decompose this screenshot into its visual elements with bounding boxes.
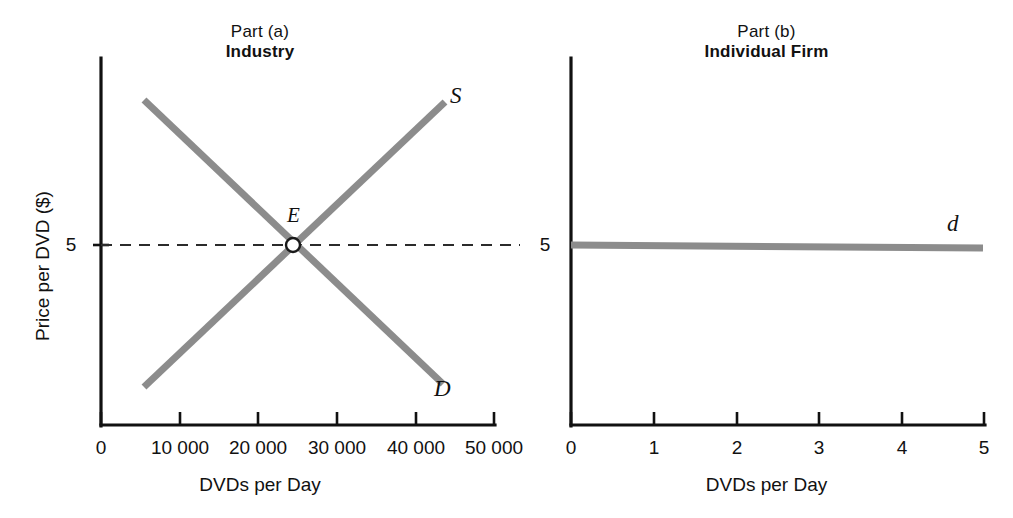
panel-a-x-axis-title: DVDs per Day <box>0 474 520 496</box>
panel-b-x-tick-label-4: 4 <box>889 437 915 459</box>
panel-b-x-tick-label-2: 2 <box>724 437 750 459</box>
panel-b-y-tick-label-5: 5 <box>532 234 558 256</box>
panel-b-x-tick-label-3: 3 <box>806 437 832 459</box>
panel-a-x-tick-label-20000: 20 000 <box>213 437 303 459</box>
panel-a-x-tick-label-0: 0 <box>88 437 114 459</box>
panel-b-x-axis-title: DVDs per Day <box>520 474 1013 496</box>
equilibrium-point <box>286 238 300 252</box>
panel-a-x-tick-label-10000: 10 000 <box>135 437 225 459</box>
panel-individual-firm: Part (b) Individual Firm d 5 0 1 2 3 4 <box>520 0 1013 518</box>
panel-b-x-tick-label-5: 5 <box>971 437 997 459</box>
firm-demand-curve-label: d <box>947 211 959 237</box>
panel-industry: Part (a) Industry <box>0 0 520 518</box>
panel-a-y-tick-label-5: 5 <box>58 234 84 256</box>
demand-curve-firm <box>571 245 983 248</box>
panel-a-x-tick-label-30000: 30 000 <box>292 437 382 459</box>
panel-b-plot <box>520 0 1013 518</box>
panel-a-y-axis-title: Price per DVD ($) <box>32 191 54 341</box>
supply-curve-label: S <box>450 83 462 109</box>
economics-figure: Part (a) Industry <box>0 0 1013 518</box>
demand-curve-label: D <box>434 376 451 402</box>
panel-b-x-tick-label-1: 1 <box>641 437 667 459</box>
panel-a-x-tick-label-40000: 40 000 <box>371 437 461 459</box>
panel-b-x-tick-label-0: 0 <box>558 437 584 459</box>
equilibrium-label: E <box>287 203 300 228</box>
